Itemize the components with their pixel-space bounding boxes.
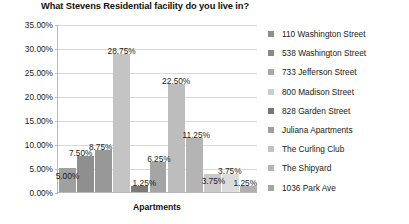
y-axis-tick-label: 25.00% (25, 68, 53, 78)
legend-item[interactable]: 828 Garden Street (268, 105, 350, 117)
legend-swatch-icon (268, 127, 274, 133)
bar-value-label: 8.75% (89, 142, 113, 152)
legend-item[interactable]: 800 Madison Street (268, 86, 354, 98)
legend-item[interactable]: The Curling Club (268, 143, 344, 155)
legend-swatch-icon (268, 146, 274, 152)
bars-layer: 5.00%7.50%8.75%28.75%1.25%6.25%22.50%11.… (58, 25, 257, 192)
bar-value-label: 28.75% (108, 46, 136, 56)
bar[interactable] (95, 150, 112, 192)
bar-chart: What Stevens Residential facility do you… (0, 0, 409, 224)
legend-swatch-icon (268, 108, 274, 114)
legend-label: Juliana Apartments (282, 124, 353, 136)
y-axis: 35.00%30.00%25.00%20.00%15.00%10.00%5.00… (0, 25, 53, 193)
legend-item[interactable]: 538 Washington Street (268, 47, 366, 59)
y-axis-tick (55, 193, 58, 194)
legend-label: The Shipyard (282, 162, 331, 174)
legend-item[interactable]: Juliana Apartments (268, 124, 353, 136)
legend-swatch-icon (268, 165, 274, 171)
chart-title: What Stevens Residential facility do you… (0, 1, 290, 11)
y-axis-tick-label: 10.00% (25, 140, 53, 150)
y-axis-tick-label: 15.00% (25, 116, 53, 126)
bar[interactable] (113, 54, 130, 192)
legend-item[interactable]: 1036 Park Ave (268, 182, 336, 194)
y-axis-tick-label: 0.00% (29, 188, 53, 198)
legend-swatch-icon (268, 31, 274, 37)
legend-label: 733 Jefferson Street (282, 66, 357, 78)
bar-value-label: 1.25% (234, 178, 258, 188)
legend-label: 110 Washington Street (282, 28, 365, 40)
legend-swatch-icon (268, 50, 274, 56)
legend-label: 800 Madison Street (282, 86, 354, 98)
bar-value-label: 1.25% (133, 178, 157, 188)
legend-item[interactable]: The Shipyard (268, 162, 331, 174)
legend-swatch-icon (268, 69, 274, 75)
bar-value-label: 11.25% (182, 130, 210, 140)
bar-value-label: 22.50% (162, 76, 190, 86)
bar[interactable] (186, 138, 203, 192)
y-axis-tick-label: 35.00% (25, 20, 53, 30)
legend-label: 828 Garden Street (282, 105, 350, 117)
legend-item[interactable]: 110 Washington Street (268, 28, 365, 40)
chart-legend: 110 Washington Street538 Washington Stre… (268, 28, 409, 200)
legend-item[interactable]: 733 Jefferson Street (268, 66, 357, 78)
legend-label: The Curling Club (282, 143, 344, 155)
bar-value-label: 6.25% (147, 154, 171, 164)
plot-area: 5.00%7.50%8.75%28.75%1.25%6.25%22.50%11.… (57, 25, 257, 193)
x-axis-title: Apartments (57, 202, 257, 212)
y-axis-tick-label: 5.00% (29, 164, 53, 174)
y-axis-tick-label: 30.00% (25, 44, 53, 54)
bar-value-label: 5.00% (56, 171, 80, 181)
y-axis-tick-label: 20.00% (25, 92, 53, 102)
legend-swatch-icon (268, 185, 274, 191)
legend-swatch-icon (268, 89, 274, 95)
legend-label: 1036 Park Ave (282, 182, 336, 194)
legend-label: 538 Washington Street (282, 47, 366, 59)
bar-value-label: 3.75% (218, 166, 242, 176)
bar-value-label: 3.75% (202, 176, 226, 186)
